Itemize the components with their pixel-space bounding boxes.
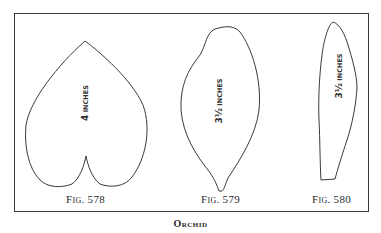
figure-label-580: Fig. 580 <box>312 193 351 205</box>
measure-label-578: 4 inches <box>80 80 90 126</box>
measure-unit: inches <box>336 53 344 80</box>
measure-unit: inches <box>216 78 224 105</box>
fig-number: 580 <box>334 193 351 205</box>
fig-number: 578 <box>88 193 105 205</box>
measure-unit: inches <box>82 85 90 112</box>
fig-prefix: Fig. <box>312 193 331 205</box>
figure-caption: Orchid <box>0 218 381 229</box>
measure-label-579: 3½ inches <box>214 75 224 127</box>
measure-value: 3½ <box>334 83 344 99</box>
figure-label-579: Fig. 579 <box>201 193 240 205</box>
measure-value: 3½ <box>214 108 224 124</box>
figure-label-578: Fig. 578 <box>66 193 105 205</box>
fig-prefix: Fig. <box>66 193 85 205</box>
fig-number: 579 <box>223 193 240 205</box>
measure-label-580: 3½ inches <box>334 50 344 102</box>
fig-prefix: Fig. <box>201 193 220 205</box>
measure-value: 4 <box>80 115 90 121</box>
